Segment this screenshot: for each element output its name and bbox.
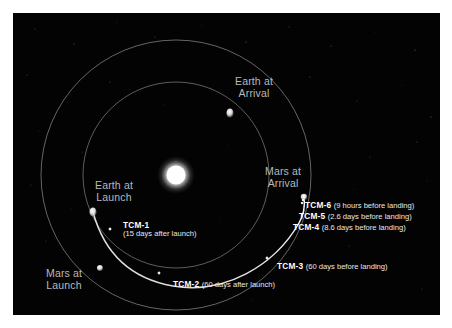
- tcm-6-note: (9 hours before landing): [334, 201, 415, 210]
- tcm-4-label: TCM-4 (8.6 days before landing): [293, 222, 406, 233]
- tcm-3-marker: [265, 256, 269, 260]
- tcm-5-note: (2.6 days before landing): [328, 212, 412, 221]
- mars-at-launch-marker: [97, 265, 103, 271]
- trajectory-diagram-figure: Earth at Arrival Earth at Launch Mars at…: [0, 0, 452, 328]
- starfield-panel: Earth at Arrival Earth at Launch Mars at…: [13, 13, 440, 315]
- tcm-5-code: TCM-5: [299, 211, 325, 221]
- tcm-2-marker: [157, 271, 161, 275]
- earth-at-arrival-marker: [226, 108, 233, 117]
- tcm-4-note: (8.6 days before landing): [322, 223, 406, 232]
- sun-core: [167, 166, 186, 185]
- earth-at-launch-marker: [89, 207, 96, 216]
- tcm-6-code: TCM-6: [305, 200, 331, 210]
- tcm-4-code: TCM-4: [293, 222, 319, 232]
- tcm-1-marker: [108, 227, 112, 231]
- tcm-5-label: TCM-5 (2.6 days before landing): [299, 211, 412, 222]
- planet-markers-layer: [89, 108, 307, 271]
- tcm-456-label-stack: TCM-6 (9 hours before landing) TCM-5 (2.…: [305, 200, 418, 233]
- tcm-6-marker: [302, 195, 305, 198]
- tcm-6-label: TCM-6 (9 hours before landing): [305, 200, 418, 211]
- stars-layer: [27, 22, 432, 309]
- transfer-trajectory-path: [93, 197, 304, 288]
- tcm-4-marker: [300, 201, 303, 204]
- orbit-diagram-svg: [13, 13, 440, 315]
